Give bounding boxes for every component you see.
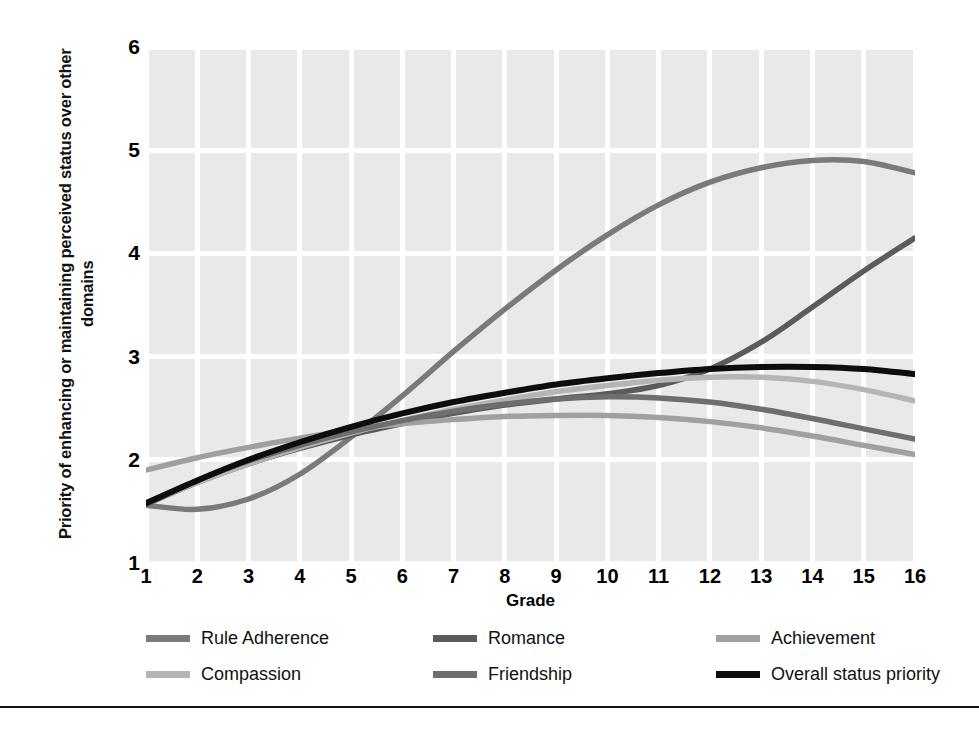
x-tick-label: 14: [792, 566, 832, 586]
legend-label: Friendship: [488, 664, 572, 685]
y-tick-label: 5: [110, 139, 140, 160]
line-series-group: [146, 47, 915, 563]
legend-swatch-icon: [433, 635, 477, 642]
legend: Rule AdherenceRomanceAchievementCompassi…: [146, 628, 946, 700]
legend-item[interactable]: Overall status priority: [716, 664, 940, 685]
legend-label: Compassion: [201, 664, 301, 685]
x-tick-label: 16: [895, 566, 935, 586]
legend-row: Rule AdherenceRomanceAchievement: [146, 628, 946, 664]
x-tick-label: 3: [229, 566, 269, 586]
plot-area: [146, 47, 915, 563]
legend-item[interactable]: Romance: [433, 628, 565, 649]
y-axis-ticks: 123456: [108, 0, 140, 600]
x-tick-label: 11: [639, 566, 679, 586]
page-artifact: [560, 0, 970, 10]
legend-item[interactable]: Compassion: [146, 664, 301, 685]
figure: Priority of enhancing or maintaining per…: [0, 0, 979, 743]
legend-label: Rule Adherence: [201, 628, 329, 649]
x-tick-label: 8: [485, 566, 525, 586]
y-tick-label: 6: [110, 36, 140, 57]
x-tick-label: 13: [741, 566, 781, 586]
legend-label: Romance: [488, 628, 565, 649]
x-tick-label: 6: [382, 566, 422, 586]
legend-swatch-icon: [146, 635, 190, 642]
legend-swatch-icon: [146, 671, 190, 678]
legend-swatch-icon: [716, 635, 760, 642]
legend-row: CompassionFriendshipOverall status prior…: [146, 664, 946, 700]
legend-item[interactable]: Friendship: [433, 664, 572, 685]
legend-label: Overall status priority: [771, 664, 940, 685]
x-tick-label: 12: [690, 566, 730, 586]
y-tick-label: 2: [110, 449, 140, 470]
y-tick-label: 4: [110, 242, 140, 263]
legend-swatch-icon: [433, 671, 477, 678]
y-tick-label: 3: [110, 346, 140, 367]
legend-swatch-icon: [716, 671, 760, 678]
y-axis-title: Priority of enhancing or maintaining per…: [55, 34, 99, 554]
footer-divider: [0, 706, 979, 708]
x-tick-label: 10: [587, 566, 627, 586]
x-tick-label: 2: [177, 566, 217, 586]
series-line: [146, 397, 915, 504]
x-axis-title: Grade: [146, 591, 915, 611]
x-tick-label: 5: [331, 566, 371, 586]
series-line: [146, 238, 915, 504]
x-tick-label: 9: [536, 566, 576, 586]
legend-item[interactable]: Achievement: [716, 628, 875, 649]
x-tick-label: 4: [280, 566, 320, 586]
legend-item[interactable]: Rule Adherence: [146, 628, 329, 649]
x-tick-label: 7: [434, 566, 474, 586]
x-tick-label: 1: [126, 566, 166, 586]
legend-label: Achievement: [771, 628, 875, 649]
x-tick-label: 15: [844, 566, 884, 586]
series-line: [146, 377, 915, 503]
